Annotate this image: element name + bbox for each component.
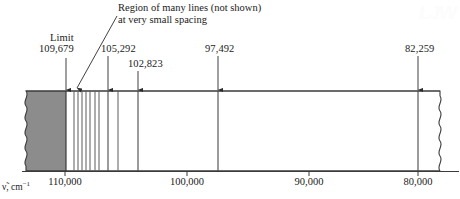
spectrum-figure: LJW Region of many lines (not shown) at … (0, 0, 460, 199)
callout-leader (77, 16, 117, 88)
continuum-region (20, 88, 66, 174)
spectrum-drawing (0, 0, 460, 199)
annotation-arrows (66, 56, 418, 90)
spectral-lines (66, 91, 418, 171)
spectrum-band-outline (25, 91, 441, 171)
